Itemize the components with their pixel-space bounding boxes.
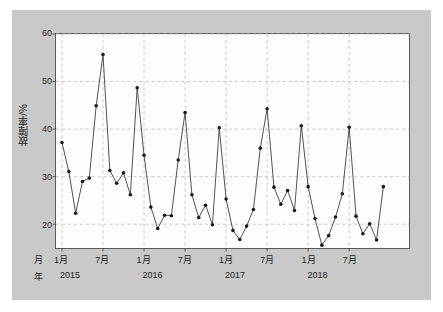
data-point [238,238,242,242]
data-point [60,141,64,145]
data-point [375,238,379,242]
plot-area [55,33,410,249]
data-point [368,222,372,226]
x-axis-month-label: 1月 [302,253,316,266]
data-point [382,185,386,189]
data-point [320,243,324,247]
data-point [156,227,160,231]
x-axis-month-label: 7月 [260,253,274,266]
y-axis-tick-label: 20 [30,220,52,230]
data-point [245,224,249,228]
data-point [306,185,310,189]
data-point [252,208,256,212]
x-axis-year-label: 2015 [60,270,80,280]
data-point [204,203,208,207]
data-point [259,146,263,150]
data-point [115,182,119,186]
data-point [286,189,290,193]
data-point [170,214,174,218]
y-axis-tick-label: 40 [30,124,52,134]
chart-figure: 故障率/% 2030405060 月 年 1月20157月1月20167月1月2… [0,0,443,312]
x-axis-year-label: 2016 [143,270,163,280]
data-point [149,205,153,209]
data-point [74,212,78,216]
data-point [217,126,221,130]
data-point [293,209,297,213]
data-point [279,202,283,206]
data-point [67,170,71,174]
x-axis-year-label: 2018 [308,270,328,280]
data-point [327,234,331,238]
x-axis-month-label: 1月 [219,253,233,266]
data-point [190,193,194,197]
data-point [135,86,139,90]
data-point [361,232,365,236]
data-point [176,158,180,162]
data-point [347,125,351,129]
data-point [129,193,133,197]
x-axis-month-row-label: 月 [34,253,43,266]
data-point [94,104,98,108]
data-point [354,214,358,218]
x-axis: 月 年 1月20157月1月20167月1月20177月1月20187月 [0,253,443,293]
data-series-layer [56,34,409,248]
x-axis-year-row-label: 年 [34,270,43,283]
x-axis-month-label: 1月 [54,253,68,266]
data-point [108,169,112,173]
x-axis-month-label: 1月 [137,253,151,266]
data-point [81,180,85,184]
x-axis-month-label: 7月 [178,253,192,266]
data-point [142,153,146,157]
data-point [101,53,105,57]
x-axis-month-label: 7月 [95,253,109,266]
y-axis-tick-label: 50 [30,76,52,86]
data-point [265,107,269,111]
data-point [211,223,215,227]
data-point [313,217,317,221]
data-point [224,197,228,201]
data-point [122,171,126,175]
data-point [341,192,345,196]
data-point [300,124,304,128]
data-point [163,213,167,217]
data-point [334,215,338,219]
y-axis-tick-labels: 2030405060 [26,33,52,249]
data-point [231,229,235,233]
data-point [88,176,92,180]
y-axis-tick-label: 30 [30,172,52,182]
data-point [272,185,276,189]
x-axis-year-label: 2017 [225,270,245,280]
data-point [197,216,201,220]
y-axis-tick-label: 60 [30,28,52,38]
x-axis-month-label: 7月 [343,253,357,266]
data-point [183,111,187,115]
